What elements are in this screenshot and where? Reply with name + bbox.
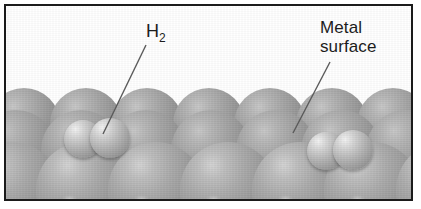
label-hydrogen: H2 <box>146 22 166 41</box>
hydrogen-atom <box>333 130 373 170</box>
label-hydrogen-subscript: 2 <box>159 31 166 45</box>
label-metal-surface: Metalsurface <box>320 18 376 56</box>
hydrogen-atom <box>90 118 130 158</box>
label-hydrogen-base: H <box>146 21 159 41</box>
label-metal-surface-line1: Metal <box>320 18 376 37</box>
label-metal-surface-line2: surface <box>320 37 376 56</box>
figure-hydrogen-on-metal-surface: H2 Metalsurface <box>0 0 421 209</box>
